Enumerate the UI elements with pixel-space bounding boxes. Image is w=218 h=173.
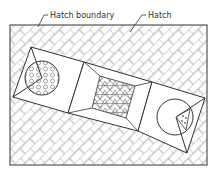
label-hatch: Hatch: [148, 11, 172, 20]
label-hatch-boundary: Hatch boundary: [50, 11, 114, 20]
hatch-diagram: Hatch boundary Hatch: [0, 0, 218, 173]
